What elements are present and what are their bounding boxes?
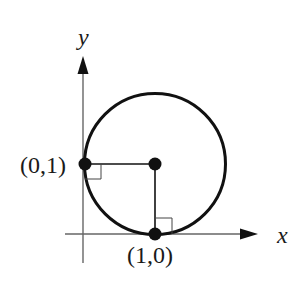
unit-circle-diagram: y x (0,1) (1,0)	[0, 0, 300, 287]
y-axis-arrowhead-icon	[78, 56, 89, 74]
point-0-1-label: (0,1)	[20, 152, 66, 178]
point-1-0	[149, 228, 162, 241]
point-0-1	[79, 158, 92, 171]
y-axis-label: y	[76, 24, 89, 50]
x-axis-label: x	[276, 222, 288, 248]
x-axis-arrowhead-icon	[240, 229, 258, 240]
point-center	[149, 158, 162, 171]
point-1-0-label: (1,0)	[127, 242, 173, 268]
